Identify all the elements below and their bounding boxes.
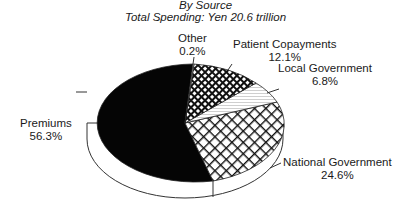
label-other: Other 0.2% <box>178 32 207 58</box>
label-national-government: National Government 24.6% <box>283 156 392 182</box>
label-copay-name: Patient Copayments <box>233 38 337 51</box>
label-patient-copayments: Patient Copayments 12.1% <box>233 38 337 64</box>
label-other-name: Other <box>178 32 207 45</box>
label-local-name: Local Government <box>278 62 372 75</box>
label-local-pct: 6.8% <box>278 75 372 88</box>
label-local-government: Local Government 6.8% <box>278 62 372 88</box>
label-premiums: Premiums 56.3% <box>20 117 72 143</box>
label-national-pct: 24.6% <box>283 169 392 182</box>
label-national-name: National Government <box>283 156 392 169</box>
label-premiums-name: Premiums <box>20 117 72 130</box>
label-premiums-pct: 56.3% <box>20 130 72 143</box>
label-other-pct: 0.2% <box>178 45 207 58</box>
